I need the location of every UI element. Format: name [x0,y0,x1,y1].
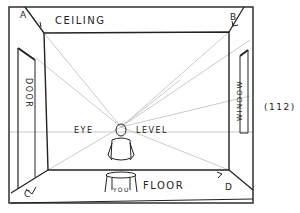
door [18,48,35,189]
arrow-d-icon [217,172,222,178]
window-label: WINDOW [236,80,244,121]
edge-a [25,7,44,33]
corner-d-label: D [225,182,233,192]
corner-c-label: C [24,189,32,199]
viewer-figure [105,124,137,192]
ceiling-label: CEILING [55,15,106,26]
perspective-room-diagram: CEILING FLOOR EYE LEVEL YOU DOOR WINDOW … [0,0,300,213]
door-label: DOOR [24,78,33,108]
arrow-a-icon [40,22,41,27]
back-wall [44,32,229,170]
corner-a-label: A [20,10,28,20]
figure-number: (112) [264,102,296,112]
level-label: LEVEL [136,126,168,135]
floor-label: FLOOR [143,180,184,191]
corner-b-label: B [230,12,238,22]
eye-label: EYE [74,126,94,135]
you-label: YOU [112,186,130,193]
